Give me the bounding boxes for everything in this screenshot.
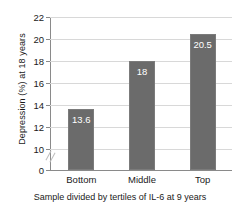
bar-value-label: 18: [130, 66, 154, 77]
y-tick-label: 14: [33, 100, 44, 111]
y-tick-mark: [46, 17, 50, 18]
y-tick-label: 16: [33, 78, 44, 89]
y-tick-label: 12: [33, 122, 44, 133]
plot-area: 010121416182022 13.61820.5 BottomMiddleT…: [50, 17, 232, 171]
x-axis-title: Sample divided by tertiles of IL-6 at 9 …: [0, 192, 240, 202]
y-tick-label: 0: [39, 165, 44, 176]
y-tick-mark: [46, 39, 50, 40]
y-tick-mark: [46, 83, 50, 84]
gridline: [50, 17, 232, 18]
bar-value-label: 20.5: [191, 39, 215, 50]
bar-chart: Depression (%) at 18 years 0101214161820…: [0, 0, 240, 212]
y-tick-mark: [46, 127, 50, 128]
y-axis-line: [50, 17, 51, 171]
axis-break-marker: [45, 149, 57, 165]
y-tick-mark: [46, 170, 50, 171]
x-tick-label: Bottom: [66, 174, 96, 185]
y-tick-label: 20: [33, 34, 44, 45]
bar: 20.5: [190, 34, 216, 171]
x-tick-label: Top: [195, 174, 210, 185]
y-tick-label: 10: [33, 144, 44, 155]
y-tick-mark: [46, 105, 50, 106]
x-tick-label: Middle: [128, 174, 156, 185]
bar: 13.6: [68, 109, 94, 170]
bar-value-label: 13.6: [69, 114, 93, 125]
bar: 18: [129, 61, 155, 170]
x-axis-line: [50, 170, 232, 171]
y-axis-title: Depression (%) at 18 years: [17, 9, 27, 169]
y-tick-label: 18: [33, 56, 44, 67]
y-tick-mark: [46, 61, 50, 62]
y-tick-label: 22: [33, 12, 44, 23]
y-tick-mark: [46, 149, 50, 150]
